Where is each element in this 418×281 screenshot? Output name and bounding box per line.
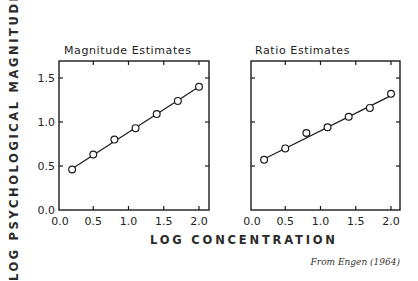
x-tick-label: 1.5 [347, 215, 365, 228]
plot-frame [59, 61, 209, 210]
x-tick-label: 2.0 [190, 215, 208, 228]
data-point [174, 97, 181, 104]
plot-frame [251, 61, 400, 210]
data-point [132, 125, 139, 132]
data-point [153, 111, 160, 118]
x-tick-label: 0.0 [243, 215, 261, 228]
data-point [196, 83, 203, 90]
data-point [366, 105, 373, 112]
x-tick-label: 0.5 [85, 215, 103, 228]
x-axis-label: LOG CONCENTRATION [150, 233, 338, 247]
x-tick-label: 2.0 [382, 215, 400, 228]
data-point [388, 90, 395, 97]
y-tick-label: 0.5 [38, 160, 56, 173]
y-tick-label: 0.0 [38, 204, 56, 217]
y-tick-label: 1.5 [38, 72, 56, 85]
y-tick-label: 1.0 [38, 116, 56, 129]
data-point [111, 136, 118, 143]
data-point [69, 166, 76, 173]
data-point [303, 130, 310, 137]
x-tick-label: 1.0 [120, 215, 138, 228]
x-tick-label: 0.5 [277, 215, 295, 228]
data-point [90, 151, 97, 158]
data-point [324, 124, 331, 131]
x-tick-label: 1.5 [155, 215, 173, 228]
data-point [345, 113, 352, 120]
x-tick-label: 1.0 [312, 215, 330, 228]
source-citation: From Engen (1964) [311, 257, 400, 267]
data-point [282, 145, 289, 152]
data-point [261, 156, 268, 163]
